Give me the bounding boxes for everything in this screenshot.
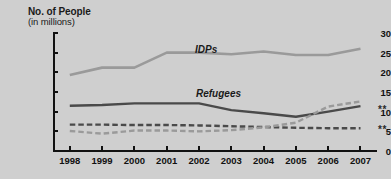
series-label-idps: IDPs [195,44,217,55]
footnote-marker-dark-dashed: ** [378,124,387,135]
footnote-marker-refugees: ** [378,104,387,115]
series-line-dark-dashed-series [70,125,361,129]
series-line-refugees [70,103,361,116]
chart-container: No. of People (in millions) 051015202530… [0,0,391,179]
series-label-refugees: Refugees [196,88,241,99]
